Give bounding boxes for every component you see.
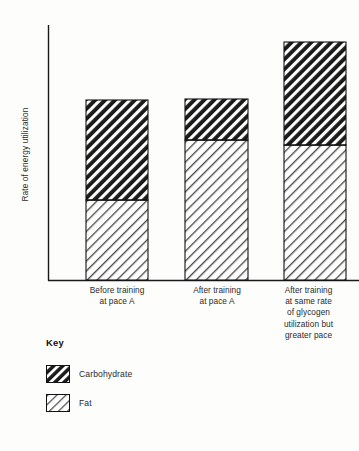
bar-3-fat-segment	[284, 145, 346, 280]
legend-label-fat: Fat	[79, 398, 92, 408]
category-label-3-line-5: greater pace	[258, 330, 359, 341]
category-label-2-line-1: After training	[162, 285, 272, 296]
category-label-1-line-1: Before training	[61, 285, 173, 296]
category-label-3-line-1: After training	[258, 285, 359, 296]
bar-3-carbohydrate-segment	[284, 42, 346, 145]
legend-swatch-carbohydrate	[46, 365, 70, 383]
category-label-3-line-3: of glycogen	[258, 307, 359, 318]
bar-group-1	[86, 100, 148, 280]
y-axis-label: Rate of energy utilization	[21, 75, 30, 235]
legend-label-carbohydrate: Carbohydrate	[79, 369, 132, 379]
chart-page: Rate of energy utilization Before traini…	[0, 0, 359, 451]
category-label-1-line-2: at pace A	[61, 296, 173, 307]
legend-item-carbohydrate: Carbohydrate	[46, 365, 132, 383]
legend-title: Key	[46, 337, 132, 348]
legend-swatch-fat	[46, 394, 70, 412]
legend-item-fat: Fat	[46, 394, 132, 412]
category-label-2-line-2: at pace A	[162, 296, 272, 307]
category-label-3-line-4: utilization but	[258, 319, 359, 330]
category-label-3-line-2: at same rate	[258, 296, 359, 307]
chart-legend: Key Carbohydrate Fat	[46, 337, 132, 423]
category-label-3: After training at same rate of glycogen …	[258, 285, 359, 341]
bar-1-carbohydrate-segment	[86, 100, 148, 200]
bar-group-2	[185, 99, 248, 280]
bar-2-carbohydrate-segment	[185, 99, 248, 140]
bar-1-fat-segment	[86, 200, 148, 280]
bar-2-fat-segment	[185, 140, 248, 280]
bar-group-3	[284, 42, 346, 280]
category-label-2: After training at pace A	[162, 285, 272, 307]
category-label-1: Before training at pace A	[61, 285, 173, 307]
